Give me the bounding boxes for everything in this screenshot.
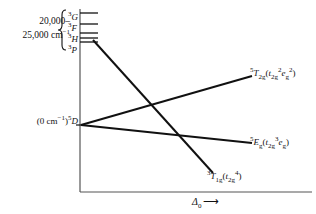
ground-term-letter: D	[72, 116, 79, 126]
config-close-paren: )	[293, 68, 296, 78]
energy-level-diagram: 20,000– 25,000 cm−1 3G 3F 3H 3P (0 cm−1)…	[0, 0, 316, 214]
ground-energy-text: (0 cm	[37, 116, 58, 126]
free-ion-term-3P: 3P	[68, 42, 78, 53]
delta-subscript: 0	[198, 202, 202, 210]
free-ion-term-3G: 3G	[68, 9, 78, 20]
state-subscript: 1g	[216, 176, 223, 184]
energy-range-line2: 25,000 cm−1	[8, 28, 70, 42]
energy-range-label: 20,000– 25,000 cm−1	[8, 16, 70, 42]
energy-range-line1: 20,000–	[39, 16, 70, 26]
free-ion-term-3H: 3H	[68, 31, 78, 42]
state-label-t2g: 5T2g(t2g2eg2)	[250, 67, 296, 81]
config-orbital-1-sub: 2g	[268, 142, 275, 150]
state-label-eg: 5Eg(t2g3eg)	[250, 136, 289, 150]
config-close-paren: )	[286, 137, 289, 147]
state-subscript: 2g	[259, 73, 266, 81]
x-axis-label: Δ0⟶	[192, 196, 219, 210]
state-label-t1g: 3T1g(t2g4)	[207, 170, 242, 184]
ground-state-label: (0 cm−1)5D	[8, 115, 78, 126]
line-5Eg	[81, 125, 252, 143]
config-orbital-1-sub: 2g	[271, 73, 278, 81]
config-orbital-1-sub: 2g	[228, 176, 235, 184]
config-close-paren: )	[239, 171, 242, 181]
free-ion-term-3F: 3F	[68, 20, 78, 31]
right-arrow-icon: ⟶	[203, 196, 219, 207]
line-5T2g	[81, 76, 252, 125]
free-ion-term-stack: 3G 3F 3H 3P	[68, 9, 78, 53]
term-letter: P	[72, 45, 78, 55]
line-3T1g	[93, 40, 213, 173]
ground-energy-exponent: −1	[58, 114, 65, 122]
